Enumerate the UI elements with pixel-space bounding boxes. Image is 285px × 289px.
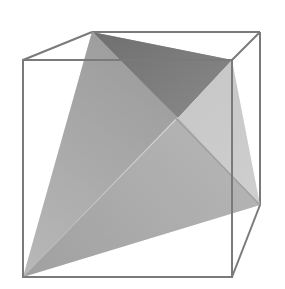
tetrahedron bbox=[23, 32, 260, 277]
cube-tetrahedron-diagram bbox=[0, 0, 285, 289]
diagram-canvas bbox=[0, 0, 285, 289]
